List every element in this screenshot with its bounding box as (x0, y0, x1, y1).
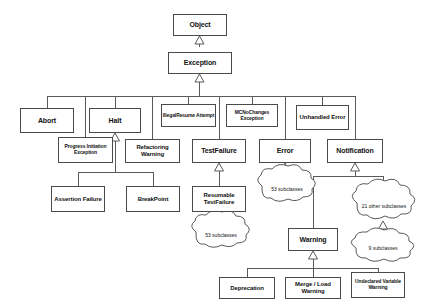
cloud-shape-warning-subclasses (351, 228, 414, 261)
class-box-halt[interactable]: Halt (89, 108, 141, 133)
class-box-breakpoint[interactable]: BreakPoint (126, 186, 180, 212)
class-box-test-failure[interactable]: TestFailure (192, 139, 246, 163)
class-box-mc-no-changes-exception[interactable]: MCNoChanges Exception (226, 104, 278, 127)
generalization-triangle-notification (351, 163, 360, 171)
cloud-shape-error-subclasses (258, 165, 316, 202)
class-box-exception[interactable]: Exception (168, 52, 232, 74)
generalization-triangle-testfailure (215, 163, 224, 171)
class-box-unhandled-error[interactable]: Unhandled Error (296, 105, 349, 130)
generalization-triangle-exception (195, 74, 204, 82)
class-box-warning[interactable]: Warning (288, 228, 338, 251)
class-box-refactoring-warning[interactable]: Refactoring Warning (125, 139, 180, 163)
class-box-object[interactable]: Object (173, 14, 227, 36)
class-box-merge-load-warning[interactable]: Merge / Load Warning (285, 277, 341, 299)
cloud-shape-notification-subclasses (352, 179, 415, 219)
class-box-error[interactable]: Error (259, 139, 311, 163)
class-box-resumable-test-failure[interactable]: Resumable TestFailure (192, 186, 246, 212)
class-box-assertion-failure[interactable]: Assertion Failure (51, 186, 105, 212)
cloud-shape-error-lower-subclasses (192, 211, 250, 248)
class-box-undeclared-variable-warning[interactable]: Undeclared Variable Warning (351, 272, 405, 298)
class-box-illegal-resume-attempt[interactable]: IllegalResume Attempt (161, 104, 216, 127)
generalization-triangle-object (195, 36, 204, 44)
generalization-triangle-warning (309, 251, 318, 259)
generalization-triangle-21other (379, 221, 388, 229)
class-hierarchy-diagram: Object Exception Abort Halt IllegalResum… (0, 0, 446, 308)
class-box-notification[interactable]: Notification (327, 139, 383, 163)
class-box-progress-initiation-exception[interactable]: Progress Initiation Exception (58, 137, 113, 163)
class-box-deprecation[interactable]: Deprecation (219, 277, 275, 299)
class-box-abort[interactable]: Abort (20, 108, 74, 133)
